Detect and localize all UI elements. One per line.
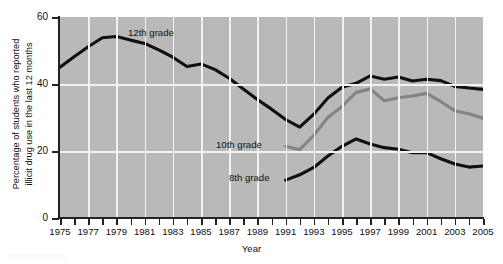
gridline-horizontal: [60, 84, 483, 86]
x-axis-tick: [272, 219, 274, 225]
x-axis-tick: [370, 219, 372, 225]
y-axis-title-line-1: Percentage of students who reported: [10, 16, 23, 212]
y-axis-tick-label: 40: [22, 78, 48, 89]
page-artifact: [8, 254, 68, 260]
x-axis-tick: [427, 219, 429, 225]
gridline-vertical: [257, 17, 259, 218]
x-axis-tick: [131, 219, 133, 225]
gridline-vertical: [370, 17, 372, 218]
x-axis-tick: [455, 219, 457, 225]
y-axis-title-line-2: illicit drug use in the last 12 months: [23, 16, 36, 212]
x-axis-tick: [398, 219, 400, 225]
x-axis-tick: [201, 219, 203, 225]
x-axis-tick: [187, 219, 189, 225]
x-axis-tick: [286, 219, 288, 225]
x-axis-tick: [215, 219, 217, 225]
x-axis-tick: [159, 219, 161, 225]
y-axis-tick-label: 0: [22, 212, 48, 223]
gridline-vertical: [88, 17, 90, 218]
series-line-12th-grade: [60, 36, 483, 127]
gridline-vertical: [173, 17, 175, 218]
x-axis-tick: [342, 219, 344, 225]
chart-figure: Percentage of students who reported illi…: [0, 0, 503, 264]
x-axis-tick: [413, 219, 415, 225]
gridline-vertical: [342, 17, 344, 218]
x-axis-tick: [229, 219, 231, 225]
x-axis-tick: [173, 219, 175, 225]
plot-area: [60, 17, 483, 218]
gridline-vertical: [145, 17, 147, 218]
gridline-horizontal: [60, 151, 483, 153]
x-axis-tick: [328, 219, 330, 225]
series-label-12th-grade: 12th grade: [128, 27, 174, 38]
y-axis-tick: [52, 151, 59, 153]
y-axis-title: Percentage of students who reported illi…: [10, 16, 38, 212]
x-axis-tick: [88, 219, 90, 225]
series-label-8th-grade: 8th grade: [229, 172, 270, 183]
x-axis-tick: [60, 219, 62, 225]
series-lines: [60, 17, 483, 218]
gridline-vertical: [455, 17, 457, 218]
x-axis-title: Year: [0, 243, 503, 254]
series-label-10th-grade: 10th grade: [216, 139, 262, 150]
x-axis-tick: [356, 219, 358, 225]
x-axis-tick: [441, 219, 443, 225]
gridline-vertical: [229, 17, 231, 218]
x-axis-tick: [145, 219, 147, 225]
x-axis-tick: [469, 219, 471, 225]
x-axis-tick: [243, 219, 245, 225]
gridline-vertical: [314, 17, 316, 218]
y-axis-line: [58, 16, 60, 219]
x-axis-tick-label: 2005: [463, 226, 503, 237]
y-axis-tick: [52, 84, 59, 86]
gridline-vertical: [398, 17, 400, 218]
gridline-vertical: [286, 17, 288, 218]
y-axis-tick: [52, 218, 59, 220]
y-axis-tick-label: 60: [22, 11, 48, 22]
x-axis-tick: [74, 219, 76, 225]
y-axis-tick-label: 20: [22, 145, 48, 156]
x-axis-tick: [483, 219, 485, 225]
x-axis-tick: [314, 219, 316, 225]
x-axis-tick: [102, 219, 104, 225]
x-axis-tick: [384, 219, 386, 225]
gridline-vertical: [116, 17, 118, 218]
gridline-vertical: [201, 17, 203, 218]
gridline-vertical: [427, 17, 429, 218]
x-axis-tick: [300, 219, 302, 225]
x-axis-tick: [116, 219, 118, 225]
y-axis-tick: [52, 17, 59, 19]
x-axis-tick: [257, 219, 259, 225]
